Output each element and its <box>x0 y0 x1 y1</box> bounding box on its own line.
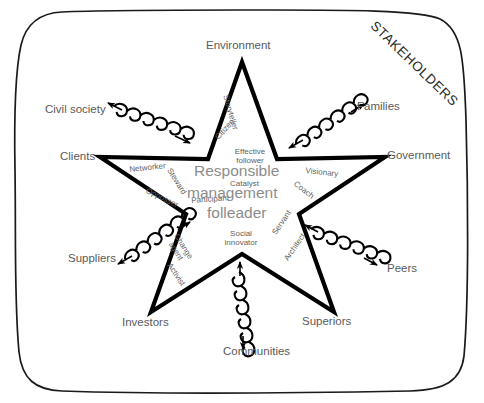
stakeholder-label-civil-society: Civil society <box>45 103 106 115</box>
stakeholder-label-superiors: Superiors <box>302 315 351 327</box>
stakeholder-label-clients: Clients <box>60 150 95 162</box>
stakeholder-label-suppliers: Suppliers <box>68 252 116 264</box>
stakeholder-label-communities: Communities <box>223 345 290 357</box>
stakeholder-label-environment: Environment <box>206 39 271 51</box>
stakeholder-label-government: Government <box>387 149 450 161</box>
diagram-canvas: STAKEHOLDERS Environment Civil society F… <box>0 0 484 403</box>
core-line-folleader: folleader <box>207 205 266 221</box>
core-line-responsible: Responsible <box>194 163 279 179</box>
core-line-management: management <box>187 185 277 201</box>
stakeholder-label-peers: Peers <box>387 262 417 274</box>
spring-arrow-communities <box>233 262 255 356</box>
role-label-social-innovator: Social innovator <box>217 230 265 248</box>
stakeholder-label-families: Families <box>357 100 400 112</box>
spring-arrow-civil-society <box>108 92 196 150</box>
stakeholder-label-investors: Investors <box>122 316 169 328</box>
